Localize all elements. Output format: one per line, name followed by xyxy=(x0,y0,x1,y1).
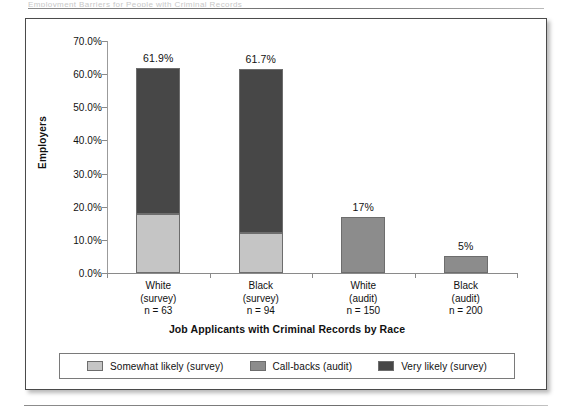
category-label-line: White xyxy=(313,280,413,293)
legend-swatch-icon xyxy=(378,361,394,371)
bar[interactable] xyxy=(444,41,488,273)
legend-item[interactable]: Somewhat likely (survey) xyxy=(87,361,224,372)
bar-segment[interactable] xyxy=(444,256,488,273)
category-label-line: (audit) xyxy=(416,293,516,306)
x-axis-category-label: Black(survey)n = 94 xyxy=(211,280,311,318)
legend-swatch-icon xyxy=(87,361,103,371)
legend-label: Call-backs (audit) xyxy=(273,361,353,372)
x-axis-category-label: Black(audit)n = 200 xyxy=(416,280,516,318)
bar-value-label: 61.7% xyxy=(221,53,301,65)
bar-segment[interactable] xyxy=(136,68,180,214)
bar-value-label: 17% xyxy=(323,201,403,213)
category-label-line: (survey) xyxy=(108,293,208,306)
bar[interactable] xyxy=(341,41,385,273)
bar[interactable] xyxy=(239,41,283,273)
y-axis-tick-label: 20.0% xyxy=(46,201,102,212)
x-axis-tick-mark xyxy=(415,273,416,278)
y-axis-tick-mark xyxy=(102,174,107,175)
x-axis-title: Job Applicants with Criminal Records by … xyxy=(26,323,548,335)
y-axis-tick-label: 10.0% xyxy=(46,234,102,245)
y-axis-tick-label: 50.0% xyxy=(46,102,102,113)
x-axis-category-label: White(audit)n = 150 xyxy=(313,280,413,318)
legend-label: Very likely (survey) xyxy=(401,361,487,372)
bar-chart-plot: Employers 70.0%60.0%50.0%40.0%30.0%20.0%… xyxy=(26,19,548,391)
category-label-line: Black xyxy=(416,280,516,293)
legend-label: Somewhat likely (survey) xyxy=(110,361,224,372)
y-axis-line xyxy=(107,41,108,273)
x-axis-tick-mark xyxy=(210,273,211,278)
legend-swatch-icon xyxy=(250,361,266,371)
y-axis-tick-labels: 70.0%60.0%50.0%40.0%30.0%20.0%10.0%0.0% xyxy=(40,19,102,391)
x-axis-tick-mark xyxy=(312,273,313,278)
bar-segment[interactable] xyxy=(239,69,283,233)
category-label-line: n = 63 xyxy=(108,305,208,318)
y-axis-tick-mark xyxy=(102,74,107,75)
legend-item[interactable]: Very likely (survey) xyxy=(378,361,487,372)
category-label-line: n = 200 xyxy=(416,305,516,318)
y-axis-tick-label: 0.0% xyxy=(46,268,102,279)
chart-legend: Somewhat likely (survey)Call-backs (audi… xyxy=(59,353,515,379)
category-label-line: Black xyxy=(211,280,311,293)
category-label-line: (audit) xyxy=(313,293,413,306)
y-axis-tick-mark xyxy=(102,107,107,108)
bar-value-label: 5% xyxy=(426,240,506,252)
x-axis-tick-mark xyxy=(107,273,108,278)
x-axis-tick-mark xyxy=(517,273,518,278)
category-label-line: (survey) xyxy=(211,293,311,306)
page-rule-top xyxy=(28,8,544,9)
y-axis-tick-mark xyxy=(102,140,107,141)
bar-value-label: 61.9% xyxy=(118,52,198,64)
y-axis-tick-label: 30.0% xyxy=(46,168,102,179)
legend-item[interactable]: Call-backs (audit) xyxy=(250,361,353,372)
category-label-line: n = 150 xyxy=(313,305,413,318)
y-axis-tick-label: 60.0% xyxy=(46,69,102,80)
bar-segment[interactable] xyxy=(136,214,180,273)
y-axis-tick-mark xyxy=(102,240,107,241)
y-axis-tick-mark xyxy=(102,41,107,42)
page-canvas: Employment Barriers for People with Crim… xyxy=(0,0,571,414)
category-label-line: White xyxy=(108,280,208,293)
bar[interactable] xyxy=(136,41,180,273)
page-rule-bottom xyxy=(24,405,548,406)
figure-frame: Employers 70.0%60.0%50.0%40.0%30.0%20.0%… xyxy=(25,18,547,390)
y-axis-tick-label: 40.0% xyxy=(46,135,102,146)
x-axis-category-label: White(survey)n = 63 xyxy=(108,280,208,318)
bar-segment[interactable] xyxy=(341,217,385,273)
y-axis-tick-mark xyxy=(102,207,107,208)
running-head-ghost: Employment Barriers for People with Crim… xyxy=(28,0,544,7)
bar-segment[interactable] xyxy=(239,233,283,273)
category-label-line: n = 94 xyxy=(211,305,311,318)
y-axis-tick-label: 70.0% xyxy=(46,36,102,47)
